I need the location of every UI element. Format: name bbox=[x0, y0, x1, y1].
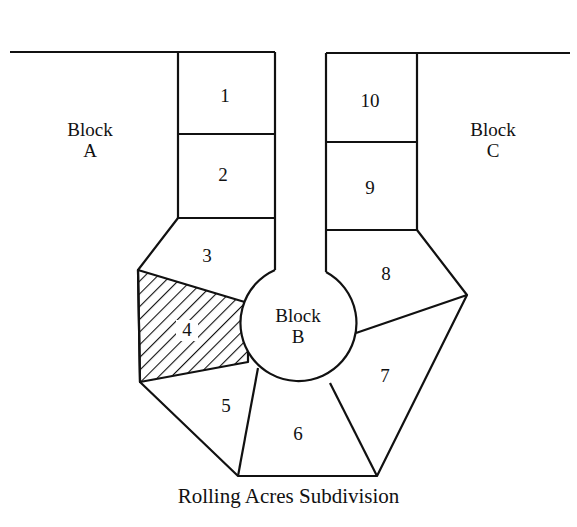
diagram-caption: Rolling Acres Subdivision bbox=[0, 484, 577, 509]
lot-3-label: 3 bbox=[197, 246, 217, 267]
lot-4-label: 4 bbox=[176, 320, 198, 341]
lot-7-label: 7 bbox=[375, 366, 395, 387]
subdivision-plat-map bbox=[0, 0, 577, 527]
block-b-label: Block B bbox=[263, 306, 333, 348]
block-a-label: Block A bbox=[55, 120, 125, 162]
block-c-label: Block C bbox=[458, 120, 528, 162]
lot-10-label: 10 bbox=[357, 91, 383, 112]
lot-6-7-divider bbox=[330, 383, 377, 476]
lot-6-label: 6 bbox=[288, 424, 308, 445]
lot-1-label: 1 bbox=[215, 86, 235, 107]
lot-2-label: 2 bbox=[213, 165, 233, 186]
lot-9-label: 9 bbox=[360, 178, 380, 199]
lot-8-label: 8 bbox=[376, 264, 396, 285]
lot-5-label: 5 bbox=[216, 396, 236, 417]
lot-5-6-divider bbox=[238, 368, 258, 476]
